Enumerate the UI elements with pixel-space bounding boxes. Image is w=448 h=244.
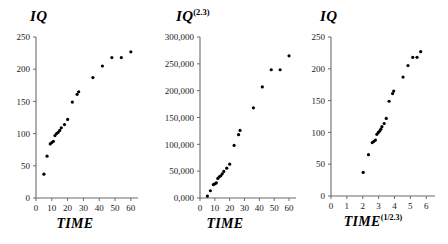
x-tick-label: 50 — [111, 203, 121, 213]
y-tick-label: 300,000 — [165, 32, 195, 42]
y-tick-label: 250,000 — [165, 59, 195, 69]
x-tick-label: 10 — [47, 203, 57, 213]
panel-1-plot: 0501001502002500102030405060 — [0, 0, 150, 215]
y-tick-label: 250 — [17, 32, 31, 42]
x-tick-label: 0 — [329, 201, 334, 211]
data-point — [415, 56, 418, 59]
data-point — [392, 89, 395, 92]
x-tick-label: 40 — [95, 203, 105, 213]
data-point — [225, 167, 228, 170]
y-tick-label: 0 — [321, 191, 326, 201]
data-point — [401, 75, 404, 78]
data-point — [110, 56, 113, 59]
data-point — [42, 173, 45, 176]
x-tick-label: 60 — [126, 203, 136, 213]
panel-2-plot: 0,00050,000100,000150,000200,000250,0003… — [150, 0, 300, 215]
data-point — [228, 163, 231, 166]
x-tick-label: 20 — [63, 203, 73, 213]
data-point — [77, 90, 80, 93]
data-point — [270, 68, 273, 71]
x-tick-label: 1 — [345, 201, 350, 211]
data-point — [215, 181, 218, 184]
data-point — [388, 100, 391, 103]
data-point — [45, 155, 48, 158]
x-tick-label: 0 — [34, 203, 39, 213]
y-tick-label: 100 — [17, 129, 31, 139]
x-tick-label: 10 — [210, 203, 220, 213]
panel-3-x-axis-label: TIME(1/2.3) — [298, 214, 448, 229]
data-point — [66, 118, 69, 121]
data-point — [279, 68, 282, 71]
chart-panel-3: IQ 0501001502002500123456 TIME(1/2.3) — [298, 0, 448, 244]
panel-3-x-axis-label-superscript: (1/2.3) — [381, 213, 403, 222]
data-point — [233, 144, 236, 147]
y-tick-label: 50,000 — [169, 166, 194, 176]
y-tick-label: 250 — [312, 32, 326, 42]
y-tick-label: 200 — [17, 64, 31, 74]
y-tick-label: 100 — [312, 128, 326, 138]
x-tick-label: 60 — [285, 203, 295, 213]
x-tick-label: 30 — [79, 203, 89, 213]
data-point — [287, 54, 290, 57]
data-point — [419, 50, 422, 53]
data-point — [52, 140, 55, 143]
y-tick-label: 50 — [21, 161, 31, 171]
x-tick-label: 40 — [255, 203, 265, 213]
data-point — [209, 189, 212, 192]
panel-1-x-axis-label-text: TIME — [57, 216, 94, 231]
y-tick-label: 0,000 — [174, 193, 195, 203]
data-point — [252, 106, 255, 109]
data-point — [60, 126, 63, 129]
data-point — [101, 64, 104, 67]
x-tick-label: 4 — [392, 201, 397, 211]
panel-3-x-axis-label-text: TIME — [344, 214, 381, 229]
data-point — [206, 195, 209, 198]
chart-panel-2: IQ(2.3) 0,00050,000100,000150,000200,000… — [150, 0, 300, 244]
data-point — [374, 138, 377, 141]
x-tick-label: 2 — [360, 201, 365, 211]
data-point — [367, 153, 370, 156]
data-point — [411, 56, 414, 59]
data-point — [362, 171, 365, 174]
panel-2-x-axis-label-text: TIME — [207, 216, 244, 231]
x-tick-label: 3 — [376, 201, 381, 211]
data-point — [237, 133, 240, 136]
data-point — [222, 170, 225, 173]
chart-panel-1: IQ 0501001502002500102030405060 TIME — [0, 0, 150, 244]
panel-2-x-axis-label: TIME — [150, 216, 300, 231]
y-tick-label: 150 — [312, 96, 326, 106]
x-tick-label: 5 — [408, 201, 413, 211]
data-point — [91, 76, 94, 79]
data-point — [406, 64, 409, 67]
x-tick-label: 30 — [240, 203, 250, 213]
data-point — [261, 85, 264, 88]
x-tick-label: 6 — [424, 201, 429, 211]
y-tick-label: 150 — [17, 97, 31, 107]
y-tick-label: 200,000 — [165, 86, 195, 96]
data-point — [383, 122, 386, 125]
data-point — [385, 117, 388, 120]
y-tick-label: 150,000 — [165, 113, 195, 123]
figure-three-scatter-panels: IQ 0501001502002500102030405060 TIME IQ(… — [0, 0, 448, 244]
y-tick-label: 200 — [312, 64, 326, 74]
y-tick-label: 0 — [26, 193, 31, 203]
data-point — [238, 129, 241, 132]
data-point — [129, 50, 132, 53]
data-point — [63, 123, 66, 126]
x-tick-label: 50 — [270, 203, 280, 213]
data-point — [71, 100, 74, 103]
x-tick-label: 0 — [198, 203, 203, 213]
y-tick-label: 50 — [316, 159, 326, 169]
data-point — [120, 56, 123, 59]
panel-1-x-axis-label: TIME — [0, 216, 150, 231]
x-tick-label: 20 — [225, 203, 235, 213]
panel-3-plot: 0501001502002500123456 — [298, 0, 448, 215]
y-tick-label: 100,000 — [165, 140, 195, 150]
data-point — [380, 125, 383, 128]
